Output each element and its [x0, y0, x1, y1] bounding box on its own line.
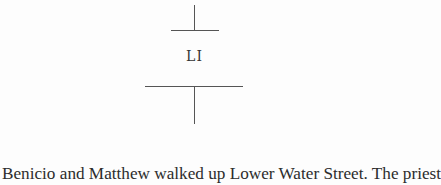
ornament-top-horizontal-rule: [171, 30, 219, 31]
ornament-top-vertical-rule: [194, 5, 195, 30]
body-text-first-line: Benicio and Matthew walked up Lower Wate…: [2, 164, 441, 184]
chapter-number: LI: [0, 48, 389, 64]
ornament-bottom-vertical-rule: [194, 86, 195, 124]
